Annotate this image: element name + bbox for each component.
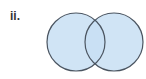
venn-diagram — [0, 0, 146, 79]
